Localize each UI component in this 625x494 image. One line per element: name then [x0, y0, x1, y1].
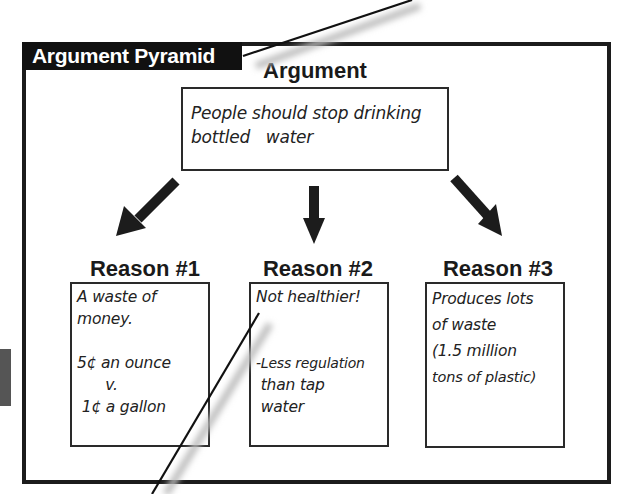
- reason-line: Produces lots: [432, 286, 566, 312]
- reason-3-text: Produces lots of waste (1.5 million tons…: [432, 286, 566, 390]
- reason-2-text: Not healthier! -Less regulation than tap…: [256, 286, 390, 418]
- reason-line: money.: [77, 308, 211, 330]
- reason-line: A waste of: [77, 286, 211, 308]
- reason-line: of waste: [432, 312, 566, 338]
- reason-3-box: Produces lots of waste (1.5 million tons…: [425, 282, 565, 448]
- reason-line: 5¢ an ounce: [77, 352, 211, 374]
- reason-line: water: [256, 396, 390, 418]
- reason-1-heading: Reason #1: [70, 256, 220, 282]
- reason-line: v.: [77, 374, 211, 396]
- reason-1-text: A waste of money. 5¢ an ounce v. 1¢ a ga…: [77, 286, 211, 418]
- reason-line: [256, 330, 390, 352]
- argument-text: People should stop drinking bottled wate…: [191, 101, 441, 149]
- reason-2-heading: Reason #2: [243, 256, 393, 282]
- page-edge-tab: [0, 349, 11, 406]
- reason-1-box: A waste of money. 5¢ an ounce v. 1¢ a ga…: [70, 282, 210, 447]
- reason-line: tons of plastic): [432, 364, 566, 390]
- reason-line: than tap: [256, 374, 390, 396]
- diagram-title: Argument Pyramid: [22, 42, 242, 70]
- argument-heading: Argument: [230, 58, 400, 84]
- argument-line: bottled water: [191, 125, 441, 149]
- reason-3-heading: Reason #3: [423, 256, 573, 282]
- reason-line: (1.5 million: [432, 338, 566, 364]
- argument-line: People should stop drinking: [191, 101, 441, 125]
- argument-box: People should stop drinking bottled wate…: [181, 87, 449, 171]
- reason-line: Not healthier!: [256, 286, 390, 308]
- reason-line: [77, 330, 211, 352]
- reason-line: [256, 308, 390, 330]
- reason-line: 1¢ a gallon: [77, 396, 211, 418]
- reason-2-box: Not healthier! -Less regulation than tap…: [249, 282, 389, 447]
- reason-line: -Less regulation: [256, 352, 390, 374]
